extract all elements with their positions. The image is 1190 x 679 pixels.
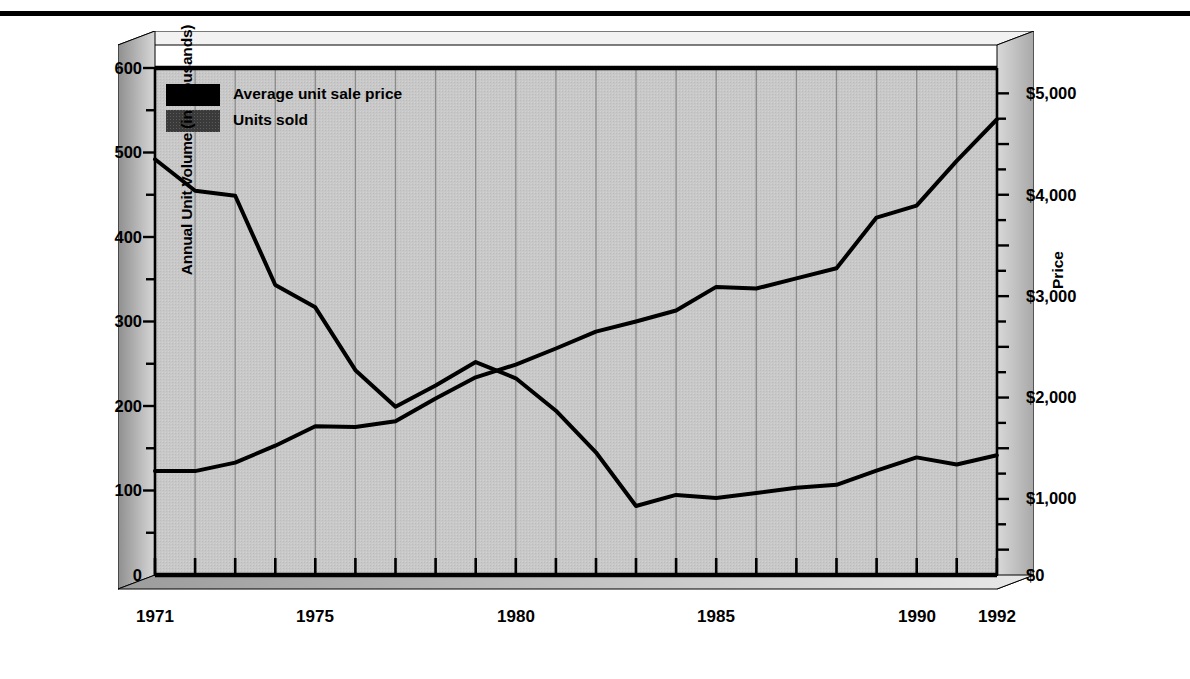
y-left-tick-600: 600: [58, 59, 142, 78]
chart-3d-top: [118, 31, 1034, 45]
y-right-tick-5000: $5,000: [1026, 84, 1076, 103]
y-right-tick-0: $0: [1026, 566, 1044, 585]
legend-label-average-unit-sale-price: Average unit sale price: [233, 85, 402, 103]
x-tick-1992: 1992: [957, 607, 1037, 627]
x-tick-1985: 1985: [676, 607, 756, 627]
plot-area-background: [155, 68, 997, 575]
chart-figure: Average unit sale price Units sold 600 5…: [118, 31, 1034, 609]
x-tick-1975: 1975: [275, 607, 355, 627]
y-left-tick-500: 500: [58, 143, 142, 162]
legend-label-units-sold: Units sold: [233, 111, 308, 129]
y-left-tick-300: 300: [58, 312, 142, 331]
y-axis-left-title: Annual Unit Volume (in thousands): [178, 0, 196, 315]
chart-page: Average unit sale price Units sold 600 5…: [0, 0, 1190, 679]
y-left-tick-400: 400: [58, 228, 142, 247]
y-right-tick-2000: $2,000: [1026, 388, 1076, 407]
y-left-tick-100: 100: [58, 481, 142, 500]
y-left-tick-200: 200: [58, 397, 142, 416]
y-right-tick-1000: $1,000: [1026, 489, 1076, 508]
y-right-tick-4000: $4,000: [1026, 186, 1076, 205]
x-tick-1990: 1990: [877, 607, 957, 627]
x-tick-1980: 1980: [476, 607, 556, 627]
y-axis-right-title: Price: [1049, 210, 1067, 330]
y-left-tick-0: 0: [58, 566, 142, 585]
x-tick-1971: 1971: [115, 607, 195, 627]
chart-3d-left-wall: [118, 31, 155, 589]
